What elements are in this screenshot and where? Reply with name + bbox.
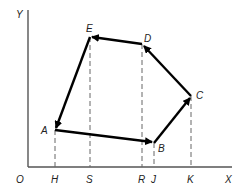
point-label-a: A [40, 125, 48, 136]
tick-label-r: R [138, 174, 145, 185]
vector-c-to-d-arrow-icon [144, 46, 191, 96]
point-label-b: B [158, 143, 165, 154]
vector-e-to-a-arrow-icon [56, 37, 90, 128]
tick-label-k: K [187, 174, 195, 185]
vector-b-to-c-arrow-icon [154, 98, 190, 143]
origin-label: O [16, 174, 24, 185]
point-label-c: C [196, 90, 204, 101]
vector-d-to-e-arrow-icon [92, 37, 142, 44]
point-label-e: E [86, 23, 93, 34]
vector-polygon-diagram: A B C D E Y O X H S R J K [0, 0, 247, 192]
tick-label-s: S [86, 174, 93, 185]
x-axis-label: X [224, 174, 232, 185]
y-axis-label: Y [16, 9, 24, 20]
vector-a-to-b-arrow-icon [55, 130, 152, 142]
point-label-d: D [144, 33, 151, 44]
tick-label-j: J [150, 174, 157, 185]
tick-label-h: H [51, 174, 59, 185]
